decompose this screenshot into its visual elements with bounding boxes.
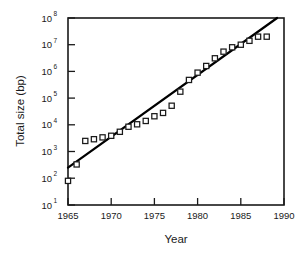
data-point xyxy=(221,49,226,54)
data-point xyxy=(74,162,79,167)
y-tick-mantissa-6: 10 xyxy=(41,66,52,77)
x-tick-labels: 1965 1970 1975 1980 1985 1990 xyxy=(57,210,294,221)
y-tick-mantissa-3: 10 xyxy=(41,146,52,157)
data-point xyxy=(160,110,165,115)
data-point xyxy=(65,178,70,183)
y-tick-exponent-2: 2 xyxy=(54,170,58,177)
data-point xyxy=(212,56,217,61)
y-tick-exponent-8: 8 xyxy=(54,10,58,17)
y-tick-mantissa-1: 10 xyxy=(41,200,52,211)
data-point xyxy=(186,77,191,82)
x-tick-label-1980: 1980 xyxy=(187,210,208,221)
y-tick-mantissa-8: 10 xyxy=(41,13,52,24)
data-point xyxy=(117,129,122,134)
data-point xyxy=(264,34,269,39)
data-point xyxy=(238,42,243,47)
x-tick-label-1965: 1965 xyxy=(57,210,78,221)
data-point xyxy=(204,63,209,68)
y-tick-exponent-1: 1 xyxy=(54,197,58,204)
y-tick-exponent-3: 3 xyxy=(54,144,58,151)
x-axis-title: Year xyxy=(164,233,187,245)
x-axis-ticks xyxy=(68,198,284,205)
data-point xyxy=(126,124,131,129)
data-point-group xyxy=(65,34,269,183)
data-point xyxy=(255,34,260,39)
plot-frame xyxy=(68,18,284,205)
chart-figure: 10 8 10 7 10 6 10 5 10 4 10 3 10 2 10 1 … xyxy=(0,0,305,254)
y-tick-mantissa-5: 10 xyxy=(41,93,52,104)
y-axis-ticks xyxy=(68,18,75,205)
x-tick-label-1985: 1985 xyxy=(230,210,251,221)
data-point xyxy=(230,45,235,50)
y-tick-exponent-7: 7 xyxy=(54,37,58,44)
data-point xyxy=(169,103,174,108)
data-point xyxy=(135,122,140,127)
data-point xyxy=(83,138,88,143)
y-tick-exponent-4: 4 xyxy=(54,117,58,124)
y-tick-exponent-6: 6 xyxy=(54,63,58,70)
data-point xyxy=(143,118,148,123)
trend-line xyxy=(68,18,277,168)
data-point xyxy=(109,133,114,138)
fit-line-group xyxy=(68,18,277,168)
y-tick-exponent-5: 5 xyxy=(54,90,58,97)
data-point xyxy=(91,137,96,142)
y-tick-mantissa-7: 10 xyxy=(41,39,52,50)
scatter-plot-svg: 10 8 10 7 10 6 10 5 10 4 10 3 10 2 10 1 … xyxy=(0,0,305,254)
data-point xyxy=(152,114,157,119)
data-point xyxy=(195,70,200,75)
x-tick-label-1975: 1975 xyxy=(144,210,165,221)
y-tick-mantissa-2: 10 xyxy=(41,173,52,184)
y-tick-labels: 10 8 10 7 10 6 10 5 10 4 10 3 10 2 10 1 xyxy=(41,10,57,211)
y-tick-mantissa-4: 10 xyxy=(41,119,52,130)
x-tick-label-1970: 1970 xyxy=(101,210,122,221)
data-point xyxy=(178,89,183,94)
x-tick-label-1990: 1990 xyxy=(273,210,294,221)
y-axis-title: Total size (bp) xyxy=(14,75,26,147)
data-point xyxy=(247,38,252,43)
data-point xyxy=(100,135,105,140)
